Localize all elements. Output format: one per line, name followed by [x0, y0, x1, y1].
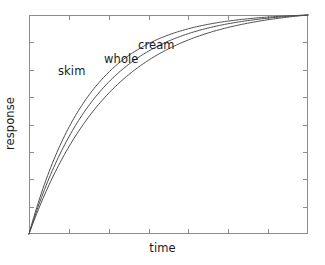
curve-label-skim: skim	[58, 66, 85, 78]
y-axis-label: response	[3, 97, 17, 150]
x-axis-label: time	[0, 243, 325, 255]
chart-screenshot: skim whole cream time response	[0, 0, 325, 265]
curve-label-cream: cream	[138, 40, 175, 52]
y-axis-label-wrapper: response	[0, 94, 18, 154]
curve-label-whole: whole	[104, 54, 139, 66]
